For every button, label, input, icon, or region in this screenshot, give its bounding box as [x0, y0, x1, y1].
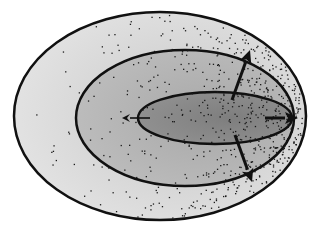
diagram-canvas: [0, 0, 318, 231]
ellipse-diagram: [0, 0, 318, 231]
